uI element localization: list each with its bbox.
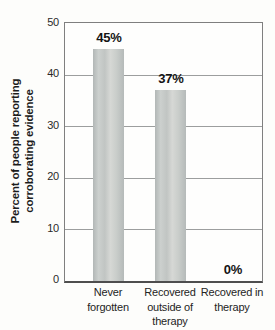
x-category-label-never-forgotten: Never forgotten [73, 285, 143, 314]
x-category-label-recovered-in-therapy: Recovered in therapy [197, 285, 267, 314]
value-label-never-forgotten: 45% [79, 31, 139, 45]
plot-area [64, 22, 263, 283]
bar-never-forgotten [93, 49, 124, 281]
value-label-recovered-in-therapy: 0% [203, 263, 263, 277]
x-category-label-recovered-outside-therapy: Recovered outside of therapy [135, 285, 205, 329]
y-tick-label-30: 30 [35, 119, 59, 132]
y-tick-label-0: 0 [35, 273, 59, 286]
y-axis-title-line2: corroborating evidence [23, 89, 35, 212]
y-axis-title-line1: Percent of people reporting [9, 79, 21, 224]
y-tick-label-40: 40 [35, 67, 59, 80]
bar-chart: Percent of people reportingcorroborating… [0, 0, 275, 330]
bar-recovered-outside-therapy [155, 90, 186, 281]
y-tick-label-50: 50 [35, 16, 59, 29]
y-tick-label-20: 20 [35, 170, 59, 183]
y-tick-label-10: 10 [35, 222, 59, 235]
value-label-recovered-outside-therapy: 37% [141, 72, 201, 86]
y-axis-title-text: Percent of people reportingcorroborating… [8, 79, 36, 224]
